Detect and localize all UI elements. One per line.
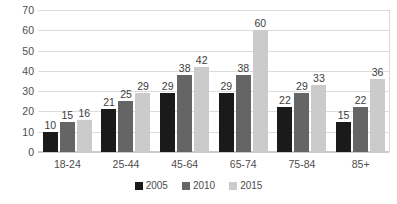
x-tick-label-45-64: 45-64 xyxy=(156,154,214,170)
gridline-0 xyxy=(38,152,389,153)
bar-value-label: 22 xyxy=(355,95,367,106)
bar-rect[interactable] xyxy=(101,109,116,152)
x-axis: 18-2425-4445-6465-7475-8485+ xyxy=(38,154,390,172)
legend-label: 2005 xyxy=(146,181,168,191)
bar-value-label: 29 xyxy=(137,81,149,92)
bar-chart: 706050403020100 101516212529293842293860… xyxy=(0,0,397,204)
bar-group-45-64: 293842 xyxy=(160,10,209,152)
bar-value-label: 36 xyxy=(372,67,384,78)
bar-value-label: 10 xyxy=(44,120,56,131)
y-tick-label-0: 0 xyxy=(0,147,34,158)
chart-title-cropped xyxy=(0,0,397,6)
y-tick-label-70: 70 xyxy=(0,5,34,16)
legend-item-2015[interactable]: 2015 xyxy=(229,181,262,191)
y-tick-label-50: 50 xyxy=(0,45,34,56)
x-tick-label-65-74: 65-74 xyxy=(214,154,272,170)
bar-value-label: 42 xyxy=(196,55,208,66)
legend-swatch-icon xyxy=(229,182,237,190)
bar-group-75-84: 222933 xyxy=(277,10,326,152)
bar-2015-25-44[interactable]: 29 xyxy=(135,10,150,152)
bar-rect[interactable] xyxy=(370,79,385,152)
legend-swatch-icon xyxy=(182,182,190,190)
bar-group-18-24: 101516 xyxy=(43,10,92,152)
bar-value-label: 16 xyxy=(78,108,90,119)
y-tick-label-20: 20 xyxy=(0,106,34,117)
legend-label: 2010 xyxy=(193,181,215,191)
bar-2010-25-44[interactable]: 25 xyxy=(118,10,133,152)
legend-swatch-icon xyxy=(135,182,143,190)
bar-value-label: 15 xyxy=(338,110,350,121)
bar-value-label: 33 xyxy=(313,73,325,84)
bar-2015-85+[interactable]: 36 xyxy=(370,10,385,152)
bar-2015-18-24[interactable]: 16 xyxy=(77,10,92,152)
bar-groups: 101516212529293842293860222933152236 xyxy=(38,10,390,152)
bar-value-label: 25 xyxy=(120,89,132,100)
y-tick-label-60: 60 xyxy=(0,25,34,36)
bar-value-label: 21 xyxy=(103,97,115,108)
bar-rect[interactable] xyxy=(219,93,234,152)
bar-2005-75-84[interactable]: 22 xyxy=(277,10,292,152)
bar-rect[interactable] xyxy=(77,120,92,152)
bar-rect[interactable] xyxy=(194,67,209,152)
bar-rect[interactable] xyxy=(294,93,309,152)
x-tick-label-85+: 85+ xyxy=(332,154,390,170)
bar-2010-18-24[interactable]: 15 xyxy=(60,10,75,152)
bar-2010-75-84[interactable]: 29 xyxy=(294,10,309,152)
x-tick-label-18-24: 18-24 xyxy=(38,154,96,170)
bar-2005-18-24[interactable]: 10 xyxy=(43,10,58,152)
bar-rect[interactable] xyxy=(253,30,268,152)
bar-2005-65-74[interactable]: 29 xyxy=(219,10,234,152)
bar-value-label: 38 xyxy=(237,63,249,74)
bar-rect[interactable] xyxy=(135,93,150,152)
bar-2015-65-74[interactable]: 60 xyxy=(253,10,268,152)
bar-value-label: 29 xyxy=(162,81,174,92)
bar-2005-45-64[interactable]: 29 xyxy=(160,10,175,152)
bar-rect[interactable] xyxy=(311,85,326,152)
bar-rect[interactable] xyxy=(118,101,133,152)
y-tick-label-30: 30 xyxy=(0,86,34,97)
bar-2005-25-44[interactable]: 21 xyxy=(101,10,116,152)
bar-value-label: 38 xyxy=(179,63,191,74)
bar-2010-65-74[interactable]: 38 xyxy=(236,10,251,152)
bar-rect[interactable] xyxy=(277,107,292,152)
bar-2005-85+[interactable]: 15 xyxy=(336,10,351,152)
bar-2010-45-64[interactable]: 38 xyxy=(177,10,192,152)
bar-value-label: 15 xyxy=(61,110,73,121)
bar-2010-85+[interactable]: 22 xyxy=(353,10,368,152)
legend-label: 2015 xyxy=(240,181,262,191)
bar-rect[interactable] xyxy=(160,93,175,152)
legend-item-2005[interactable]: 2005 xyxy=(135,181,168,191)
bar-2015-45-64[interactable]: 42 xyxy=(194,10,209,152)
y-axis: 706050403020100 xyxy=(0,10,34,152)
y-tick-label-40: 40 xyxy=(0,65,34,76)
x-tick-label-75-84: 75-84 xyxy=(273,154,331,170)
bar-rect[interactable] xyxy=(336,122,351,152)
bar-value-label: 29 xyxy=(296,81,308,92)
legend-item-2010[interactable]: 2010 xyxy=(182,181,215,191)
bar-rect[interactable] xyxy=(43,132,58,152)
bar-rect[interactable] xyxy=(353,107,368,152)
bar-rect[interactable] xyxy=(177,75,192,152)
x-tick-label-25-44: 25-44 xyxy=(97,154,155,170)
bar-value-label: 22 xyxy=(279,95,291,106)
bar-value-label: 29 xyxy=(220,81,232,92)
bar-2015-75-84[interactable]: 33 xyxy=(311,10,326,152)
y-tick-label-10: 10 xyxy=(0,126,34,137)
bar-rect[interactable] xyxy=(60,122,75,152)
bar-group-85+: 152236 xyxy=(336,10,385,152)
bar-value-label: 60 xyxy=(254,18,266,29)
bar-group-25-44: 212529 xyxy=(101,10,150,152)
bar-rect[interactable] xyxy=(236,75,251,152)
chart-legend: 200520102015 xyxy=(0,181,397,191)
bar-group-65-74: 293860 xyxy=(219,10,268,152)
